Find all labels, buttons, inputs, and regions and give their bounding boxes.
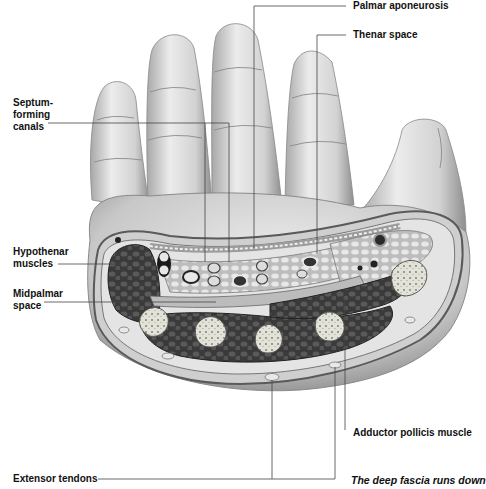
ring-finger (147, 35, 212, 205)
figure-caption: The deep fascia runs down (351, 474, 486, 486)
label-palmar-aponeurosis: Palmar aponeurosis (353, 0, 449, 12)
label-thenar-space: Thenar space (353, 29, 417, 41)
label-septum-forming-canals: Septum- forming canals (13, 97, 53, 133)
index-finger (285, 51, 354, 205)
little-finger (91, 82, 150, 210)
middle-finger (212, 24, 282, 205)
label-midpalmar-space: Midpalmar space (13, 288, 63, 312)
label-extensor-tendons: Extensor tendons (13, 473, 97, 485)
label-adductor-pollicis-muscle: Adductor pollicis muscle (353, 427, 472, 439)
label-hypothenar-muscles: Hypothenar muscles (13, 246, 69, 270)
